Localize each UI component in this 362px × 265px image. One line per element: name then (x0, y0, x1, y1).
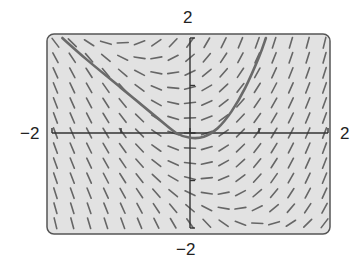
y-max-label: 2 (183, 9, 192, 26)
slope-segment (168, 87, 179, 88)
slope-field-plot (0, 0, 362, 265)
x-max-label: 2 (340, 125, 349, 142)
slope-field-figure: 2 −2 −2 2 (0, 0, 362, 265)
x-min-label: −2 (20, 125, 39, 142)
y-min-label: −2 (176, 241, 195, 258)
slope-segment (201, 178, 212, 179)
